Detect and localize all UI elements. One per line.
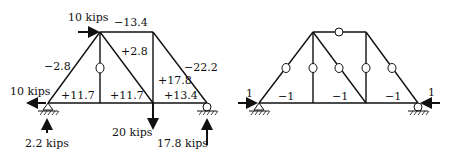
zero-force-marker — [309, 64, 317, 73]
load-label: 1 — [246, 87, 253, 100]
member-label: −1 — [332, 90, 348, 103]
zero-force-marker — [335, 64, 343, 73]
roller-support-icon — [408, 103, 429, 115]
load-label: 1 — [428, 86, 435, 99]
roller-support-icon — [197, 103, 218, 115]
load-label: 10 kips — [68, 11, 109, 24]
right-truss: 1 1 −1 −1 −1 — [238, 28, 440, 115]
pin-support-icon — [38, 103, 59, 115]
load-label: 20 kips — [112, 126, 153, 139]
pin-support-icon — [249, 103, 270, 115]
load-label: 17.8 kips — [157, 137, 208, 150]
zero-force-marker — [282, 64, 290, 73]
zero-force-marker — [362, 64, 370, 73]
zero-force-marker — [335, 28, 343, 36]
left-truss: 10 kips −13.4 −2.8 +2.8 −22.2 +17.8 +11.… — [10, 11, 218, 150]
member-label: −2.8 — [44, 60, 71, 73]
member-label: −22.2 — [184, 61, 218, 74]
member-label: −1 — [385, 90, 401, 103]
member-label: +2.8 — [121, 45, 148, 58]
truss-diagram-svg: 10 kips −13.4 −2.8 +2.8 −22.2 +17.8 +11.… — [0, 0, 452, 155]
zero-force-marker — [388, 64, 396, 73]
member-label: −1 — [278, 90, 294, 103]
member-label: +17.8 — [158, 74, 192, 87]
member-label: +11.7 — [110, 89, 144, 102]
truss-figure: 10 kips −13.4 −2.8 +2.8 −22.2 +17.8 +11.… — [0, 0, 452, 155]
member-label: +11.7 — [61, 89, 95, 102]
load-label: 2.2 kips — [25, 137, 69, 150]
member-label: +13.4 — [164, 89, 198, 102]
load-label: 10 kips — [10, 85, 51, 98]
member-label: −13.4 — [114, 16, 148, 29]
zero-force-marker — [96, 63, 104, 73]
